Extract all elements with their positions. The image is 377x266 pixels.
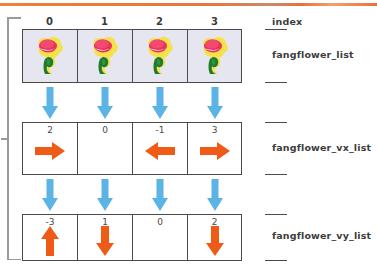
index-cell-2: 2 [132,14,187,29]
row-fangflower-vx-list: 2 0-1 3 [22,122,265,175]
index-cell-0: 0 [22,14,77,29]
arrow-down-icon [152,179,168,211]
connector-flower-to-vx [22,84,265,121]
bracket-bottom-tick [7,259,21,261]
arrow-up-icon [41,226,59,256]
arrow-down-icon [206,226,224,256]
connector-arrow-2 [132,176,187,213]
cell-fangflower_list-0[interactable] [22,29,77,83]
bracket-mid-tick [1,138,8,140]
cell-direction-glyph [23,137,77,165]
index-header-row: 0123 [22,14,265,29]
arrow-down-icon [152,87,168,119]
arrow-right-icon [35,142,65,160]
connector-arrow-1 [77,84,132,121]
row-label-fangflower-list: fangflower_list [272,49,354,60]
connector-arrow-1 [77,176,132,213]
diagram-canvas: 0123 index fangflower_li [0,0,377,266]
cell-fangflower_list-1[interactable] [77,29,132,83]
cell-direction-glyph [23,225,77,257]
cell-value: 3 [188,125,241,136]
fangflower-image [133,30,187,82]
fangflower-image [78,30,132,82]
arrow-down-icon [42,87,58,119]
fangflower-image [23,30,77,82]
index-cell-3: 3 [187,14,242,29]
fangflower-icon [142,35,178,77]
top-orange-rule [0,3,377,6]
cell-fangflower_list-3[interactable] [187,29,242,83]
cell-fangflower_vy_list-1[interactable]: 1 [77,214,132,261]
cell-fangflower_list-2[interactable] [132,29,187,83]
cell-direction-glyph [78,137,132,165]
connector-vx-to-vy [22,176,265,213]
cell-direction-glyph [78,225,132,257]
arrow-down-icon [97,179,113,211]
cell-direction-glyph [133,137,187,165]
row-fangflower-vy-list: -3 1 02 [22,214,265,261]
cell-direction-glyph [188,137,241,165]
bracket-top-tick [7,17,21,19]
fangflower-icon [87,35,123,77]
cell-value: 2 [23,125,77,136]
connector-arrow-3 [187,176,242,213]
cell-fangflower_vx_list-1[interactable]: 0 [77,122,132,175]
connector-arrow-0 [22,176,77,213]
arrow-down-icon [207,179,223,211]
cell-fangflower_vy_list-0[interactable]: -3 [22,214,77,261]
cell-fangflower_vy_list-3[interactable]: 2 [187,214,242,261]
row-fangflower-list [22,29,265,83]
cell-direction-glyph [188,225,241,257]
grouping-bracket [7,17,21,260]
arrow-down-icon [96,226,114,256]
cell-fangflower_vx_list-0[interactable]: 2 [22,122,77,175]
cell-fangflower_vx_list-2[interactable]: -1 [132,122,187,175]
cell-direction-glyph [133,225,187,257]
row-label-fangflower-vy-list: fangflower_vy_list [272,230,371,241]
arrow-down-icon [207,87,223,119]
index-cell-1: 1 [77,14,132,29]
connector-arrow-0 [22,84,77,121]
connector-arrow-3 [187,84,242,121]
cell-fangflower_vy_list-2[interactable]: 0 [132,214,187,261]
cell-value: 0 [78,125,132,136]
arrow-down-icon [97,87,113,119]
row-label-fangflower-vx-list: fangflower_vx_list [272,142,371,153]
fangflower-icon [32,35,68,77]
cell-value: -1 [133,125,187,136]
arrow-left-icon [145,142,175,160]
arrow-right-icon [200,142,230,160]
fangflower-image [188,30,241,82]
index-header-label: index [272,14,302,29]
arrow-down-icon [42,179,58,211]
connector-arrow-2 [132,84,187,121]
cell-fangflower_vx_list-3[interactable]: 3 [187,122,242,175]
fangflower-icon [197,35,233,77]
